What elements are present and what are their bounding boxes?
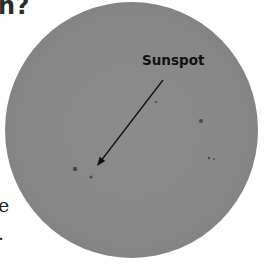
arrow-head-icon (97, 157, 105, 166)
sunspot-dot (208, 157, 210, 159)
sunspot-dot (73, 167, 77, 171)
arrow-line (101, 80, 163, 161)
sunspot-label: Sunspot (142, 52, 204, 68)
sunspot-dot (199, 119, 203, 123)
sunspot-dot (155, 101, 157, 103)
sunspot-dot (90, 176, 93, 179)
sunspot-markers (73, 101, 215, 179)
sunspot-overlay (0, 0, 266, 277)
sunspot-dot (213, 158, 215, 160)
body-text-fragment-period: . (0, 222, 4, 244)
body-text-fragment: e (0, 194, 9, 216)
